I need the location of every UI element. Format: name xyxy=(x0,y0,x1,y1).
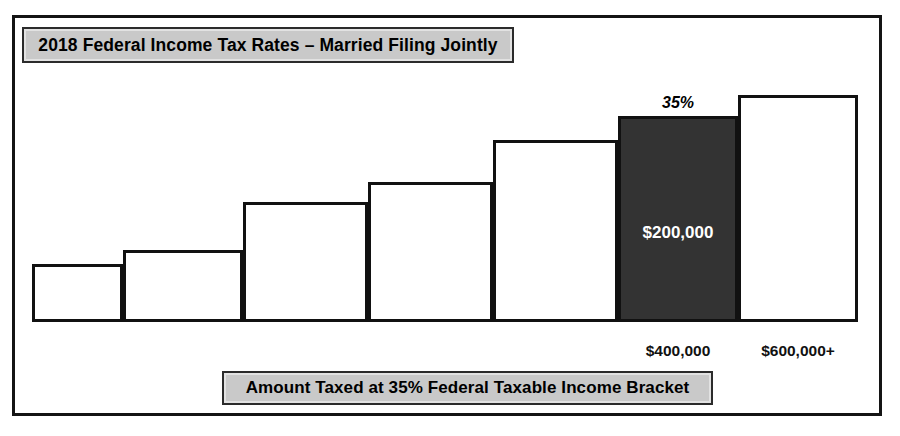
tax-bracket-figure: 2018 Federal Income Tax Rates – Married … xyxy=(0,0,900,436)
page-title: 2018 Federal Income Tax Rates – Married … xyxy=(38,35,497,56)
figure-title-banner: 2018 Federal Income Tax Rates – Married … xyxy=(22,27,514,63)
caption-text: Amount Taxed at 35% Federal Taxable Inco… xyxy=(246,378,690,398)
figure-caption-banner: Amount Taxed at 35% Federal Taxable Inco… xyxy=(222,371,713,405)
figure-frame xyxy=(12,15,882,416)
